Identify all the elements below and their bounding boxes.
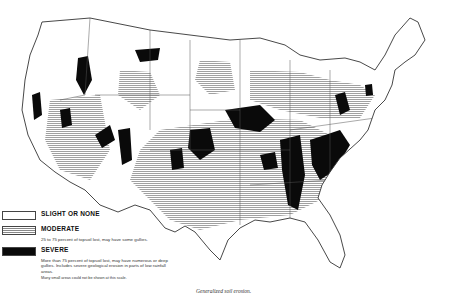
legend-desc-severe: More than 75 percent of topsoil lost, ma… — [41, 258, 172, 274]
slight-swatch — [2, 211, 36, 220]
legend-item-moderate: MODERATE — [2, 225, 172, 237]
legend-label-slight: SLIGHT OR NONE — [41, 210, 100, 217]
legend-item-severe: SEVERE — [2, 246, 172, 258]
legend-label-severe: SEVERE — [41, 246, 69, 253]
moderate-swatch — [2, 226, 36, 235]
legend-note: Many small areas could not be shown at t… — [41, 276, 172, 280]
severe-swatch — [2, 247, 36, 256]
legend-label-moderate: MODERATE — [41, 225, 79, 232]
legend-desc-moderate: 25 to 75 percent of topsoil lost, may ha… — [41, 237, 172, 242]
map-legend: SLIGHT OR NONE MODERATE 25 to 75 percent… — [2, 210, 172, 280]
legend-item-slight: SLIGHT OR NONE — [2, 210, 172, 222]
map-caption: Generalized soil erosion. — [196, 288, 251, 294]
